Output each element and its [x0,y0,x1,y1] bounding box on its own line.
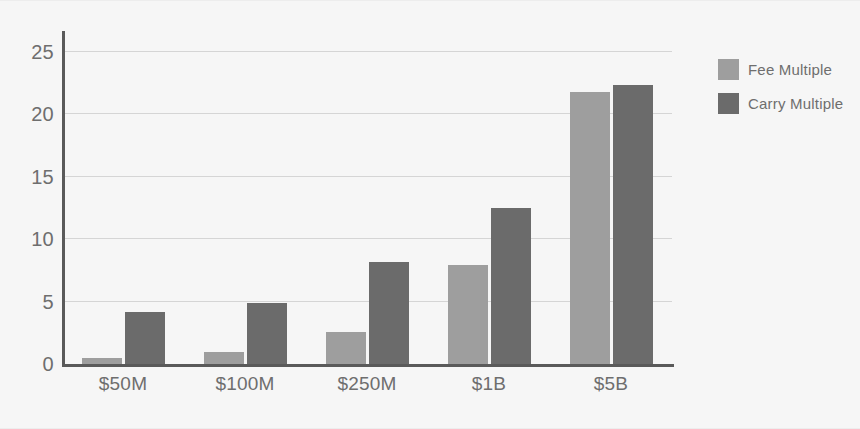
bar[interactable] [491,208,531,364]
bar-chart-figure: 0510152025 $50M$100M$250M$1B$5B Fee Mult… [0,0,860,429]
bar[interactable] [448,265,488,364]
x-axis-tick-labels: $50M$100M$250M$1B$5B [62,373,672,403]
bar-group [184,39,306,364]
bar[interactable] [326,332,366,365]
bars-layer [62,39,672,364]
bar-group [306,39,428,364]
bar[interactable] [204,352,244,365]
y-tick-label-0: 0 [43,353,54,376]
bar-group [550,39,672,364]
x-tick-label-$5B: $5B [594,373,628,395]
bar-group [428,39,550,364]
y-axis-tick-labels: 0510152025 [0,39,54,364]
legend-swatch-icon [718,93,739,114]
y-tick-label-15: 15 [31,165,54,188]
legend-item[interactable]: Fee Multiple [718,59,856,80]
y-tick-label-5: 5 [43,290,54,313]
bar[interactable] [570,92,610,365]
y-tick-label-10: 10 [31,228,54,251]
x-tick-label-$100M: $100M [215,373,274,395]
x-axis-line [62,364,674,367]
legend-item[interactable]: Carry Multiple [718,93,856,114]
x-tick-label-$250M: $250M [337,373,396,395]
plot-area [62,39,672,364]
y-axis-line [62,31,65,367]
bar[interactable] [613,85,653,364]
x-tick-label-$50M: $50M [99,373,147,395]
legend-label: Carry Multiple [748,95,843,112]
bar-group [62,39,184,364]
y-tick-label-25: 25 [31,40,54,63]
y-tick-label-20: 20 [31,103,54,126]
bar[interactable] [125,312,165,365]
bar[interactable] [247,303,287,364]
legend-label: Fee Multiple [748,61,832,78]
legend-swatch-icon [718,59,739,80]
x-tick-label-$1B: $1B [472,373,506,395]
bar[interactable] [369,262,409,365]
chart-legend: Fee MultipleCarry Multiple [718,59,856,127]
